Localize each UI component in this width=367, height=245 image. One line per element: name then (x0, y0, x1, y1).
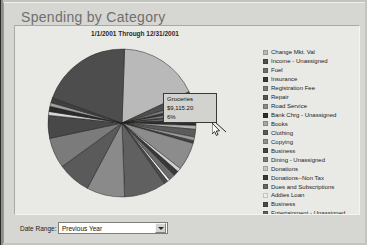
legend-item[interactable]: Addies Loan (263, 191, 360, 200)
report-subtitle-text: 1/1/2001 Through 12/31/2001 (91, 30, 179, 37)
tooltip-percent: 6% (167, 113, 214, 122)
legend-swatch-icon (263, 139, 268, 144)
page-title: Spending by Category (21, 9, 166, 25)
legend-swatch-icon (263, 77, 268, 82)
legend-item[interactable]: Dining - Unassigned (263, 155, 360, 164)
legend-swatch-icon (263, 59, 268, 64)
legend-item-label: Entertainment - Unassigned (271, 210, 345, 215)
legend-item-label: Change Mkt. Val (271, 49, 315, 55)
tooltip-amount: $9,115.20 (167, 104, 214, 113)
legend-swatch-icon (263, 211, 268, 215)
legend-swatch-icon (263, 130, 268, 135)
legend-swatch-icon (263, 86, 268, 91)
data-tooltip: Groceries $9,115.20 6% (163, 93, 217, 123)
legend-swatch-icon (263, 175, 268, 180)
pie-chart-svg (47, 48, 197, 198)
legend-swatch-icon (263, 50, 268, 55)
legend-item-label: Donations (271, 166, 298, 172)
legend-item[interactable]: Insurance (263, 75, 360, 84)
legend-swatch-icon (263, 113, 268, 118)
legend-item[interactable]: Clothing (263, 128, 360, 137)
legend-item-label: Fuel (271, 67, 283, 73)
legend-item[interactable]: Entertainment - Unassigned (263, 209, 360, 215)
legend-item-label: Insurance (271, 76, 297, 82)
legend-item[interactable]: Change Mkt. Val (263, 48, 360, 57)
legend-item[interactable]: Business (263, 200, 360, 209)
chart-legend: Change Mkt. ValIncome - UnassignedFuelIn… (263, 48, 360, 215)
report-window: Spending by Category 1/1/2001 Through 12… (0, 0, 367, 245)
legend-swatch-icon (263, 95, 268, 100)
legend-item[interactable]: Books (263, 120, 360, 129)
legend-item[interactable]: Donations (263, 164, 360, 173)
legend-item-label: Donations--Non Tax (271, 175, 324, 181)
legend-item[interactable]: Bank Chrg - Unassigned (263, 111, 360, 120)
legend-item-label: Business (271, 201, 295, 207)
report-panel: 1/1/2001 Through 12/31/2001 Groceries $9… (14, 25, 360, 215)
legend-item-label: Clothing (271, 130, 293, 136)
legend-swatch-icon (263, 202, 268, 207)
legend-item[interactable]: Road Service (263, 102, 360, 111)
legend-swatch-icon (263, 193, 268, 198)
date-range-label: Date Range: (20, 225, 57, 232)
legend-item-label: Repair (271, 94, 289, 100)
pie-chart[interactable] (47, 48, 197, 198)
legend-item[interactable]: Dues and Subscriptions (263, 182, 360, 191)
legend-swatch-icon (263, 148, 268, 153)
legend-item-label: Income - Unassigned (271, 58, 328, 64)
legend-swatch-icon (263, 166, 268, 171)
legend-item-label: Business (271, 148, 295, 154)
pie-chart-canvas[interactable] (47, 48, 197, 198)
legend-item-label: Dues and Subscriptions (271, 184, 334, 190)
legend-swatch-icon (263, 157, 268, 162)
legend-item-label: Addies Loan (271, 192, 304, 198)
chevron-down-icon[interactable] (155, 223, 166, 233)
legend-swatch-icon (263, 121, 268, 126)
legend-item-label: Books (271, 121, 288, 127)
legend-item-label: Road Service (271, 103, 307, 109)
date-range-select[interactable]: Previous Year (58, 222, 168, 234)
legend-swatch-icon (263, 104, 268, 109)
date-range-value: Previous Year (59, 225, 155, 232)
mouse-cursor-icon (212, 123, 221, 136)
legend-item[interactable]: Donations--Non Tax (263, 173, 360, 182)
legend-item-label: Registration Fee (271, 85, 315, 91)
legend-item[interactable]: Income - Unassigned (263, 57, 360, 66)
legend-swatch-icon (263, 184, 268, 189)
legend-item-label: Bank Chrg - Unassigned (271, 112, 336, 118)
legend-item[interactable]: Copying (263, 137, 360, 146)
report-subtitle: 1/1/2001 Through 12/31/2001 (15, 30, 359, 37)
legend-item[interactable]: Registration Fee (263, 84, 360, 93)
legend-item-label: Copying (271, 139, 293, 145)
legend-item[interactable]: Business (263, 146, 360, 155)
legend-item-label: Dining - Unassigned (271, 157, 325, 163)
tooltip-category: Groceries (167, 95, 214, 104)
legend-swatch-icon (263, 68, 268, 73)
window-frame: Spending by Category 1/1/2001 Through 12… (3, 2, 365, 243)
report-toolbar: Date Range: Previous Year (14, 218, 360, 240)
legend-item[interactable]: Repair (263, 93, 360, 102)
legend-item[interactable]: Fuel (263, 66, 360, 75)
